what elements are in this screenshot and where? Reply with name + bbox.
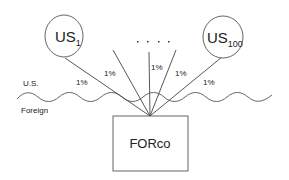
node-us1: US1: [45, 15, 83, 57]
edge-label-1: 1%: [76, 78, 88, 87]
edge-label-2: 1%: [104, 69, 116, 78]
edge-us2-forco: [113, 50, 150, 116]
border-wave: [17, 93, 272, 102]
edge-usmid-forco: [149, 52, 150, 116]
region-label-foreign: Foreign: [21, 106, 48, 115]
edge-us1-forco: [65, 58, 150, 116]
ownership-diagram: US1 US100 1% 1% 1% 1% 1% U.S. Foreign FO…: [0, 0, 289, 180]
edge-label-5: 1%: [203, 78, 215, 87]
edge-label-3: 1%: [151, 63, 163, 72]
region-label-us: U.S.: [23, 79, 39, 88]
edge-us99-forco: [150, 50, 176, 116]
node-forco-label: FORco: [129, 136, 170, 151]
node-us100: US100: [203, 16, 243, 58]
edge-label-4: 1%: [175, 69, 187, 78]
node-forco: FORco: [113, 116, 188, 171]
ellipsis-dots: [137, 41, 170, 43]
